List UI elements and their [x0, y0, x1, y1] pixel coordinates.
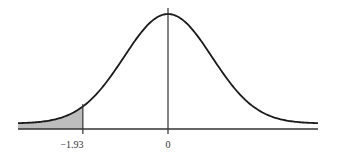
tick-label-neg-1-93: −1.93: [60, 139, 83, 150]
tick-label-zero: 0: [166, 139, 171, 150]
shaded-left-tail: [18, 107, 83, 130]
normal-curve-chart: −1.93 0: [0, 0, 342, 159]
